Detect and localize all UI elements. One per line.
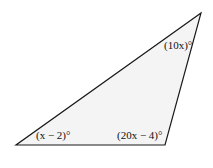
triangle-diagram: (10x)° (x − 2)° (20x − 4)°: [0, 0, 213, 168]
angle-label-bottom-right: (20x − 4)°: [117, 129, 162, 142]
triangle-shape: [16, 13, 201, 145]
angle-label-bottom-left: (x − 2)°: [36, 129, 70, 142]
angle-label-top-right: (10x)°: [164, 39, 192, 52]
